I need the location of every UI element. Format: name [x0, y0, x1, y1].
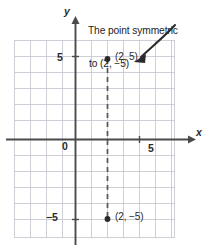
y-axis-tick-label-5: 5 — [57, 52, 63, 63]
point-original-marker — [105, 216, 111, 222]
annotation-line-1: The point symmetric — [88, 25, 178, 36]
point-original-label: (2, −5) — [115, 212, 143, 223]
y-axis-tick-label-neg5: −5 — [46, 212, 58, 223]
y-axis-label: y — [64, 6, 70, 17]
point-reflected-label: (2, 5) — [115, 52, 138, 63]
x-axis-label: x — [196, 127, 202, 138]
x-axis-tick-label-5: 5 — [148, 143, 154, 154]
annotation-text: The point symmetric to (2, −5) — [88, 3, 178, 91]
axis-y-arrowhead — [72, 16, 80, 24]
axis-x-arrowhead — [188, 136, 196, 144]
origin-label: 0 — [62, 141, 68, 152]
coordinate-plane-figure: The point symmetric to (2, −5) (2, 5) (2… — [0, 0, 211, 252]
